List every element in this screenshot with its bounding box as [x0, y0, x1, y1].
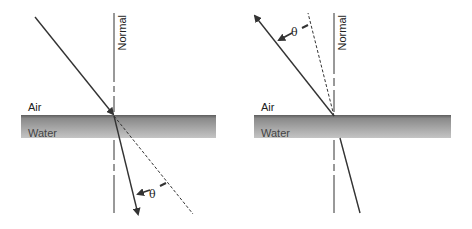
air-label: Air: [28, 101, 42, 113]
incident-ray: [35, 17, 113, 114]
water-label: Water: [261, 127, 290, 139]
air-label: Air: [261, 101, 275, 113]
left-panel: Air Water Normal θ: [21, 13, 216, 214]
normal-label: Normal: [336, 15, 348, 50]
theta-label: θ: [149, 188, 156, 201]
right-panel: Air Water Normal θ: [254, 13, 451, 213]
normal-label: Normal: [116, 15, 128, 50]
water-label: Water: [28, 127, 57, 139]
refraction-diagram: Air Water Normal θ Air Water Normal: [0, 0, 472, 229]
theta-label: θ: [291, 26, 298, 39]
ray-in-water: [340, 138, 360, 213]
